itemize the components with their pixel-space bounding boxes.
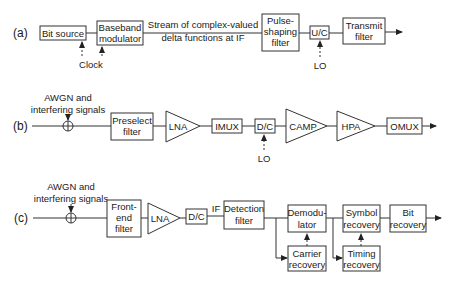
row-c-label: (c) bbox=[14, 211, 28, 225]
camp-label: CAMP bbox=[289, 121, 316, 132]
detection-label-2: filter bbox=[235, 215, 253, 226]
noise-label-c-1: AWGN and bbox=[47, 181, 95, 192]
transmit-filter-label-2: filter bbox=[355, 31, 373, 42]
carrier-label-2: recovery bbox=[289, 259, 326, 270]
bit-source-label: Bit source bbox=[42, 28, 84, 39]
lo-label-a: LO bbox=[314, 60, 327, 71]
front-end-label-3: filter bbox=[115, 223, 133, 234]
stream-note-2: delta functions at IF bbox=[162, 32, 245, 43]
upconverter-label: U/C bbox=[311, 27, 328, 38]
pulse-shaping-label-1: Pulse- bbox=[267, 15, 294, 26]
bit-label-1: Bit bbox=[402, 207, 413, 218]
summing-junction-b bbox=[63, 121, 73, 131]
row-a-transmitter: (a) Bit source Baseband modulator Stream… bbox=[13, 14, 402, 71]
communication-system-diagram: (a) Bit source Baseband modulator Stream… bbox=[0, 0, 453, 287]
timing-label-1: Timing bbox=[347, 248, 375, 259]
transmit-filter-label-1: Transmit bbox=[346, 20, 383, 31]
lna-label-c: LNA bbox=[151, 213, 170, 224]
demodulator-label-2: lator bbox=[298, 219, 316, 230]
symbol-label-1: Symbol bbox=[346, 207, 378, 218]
noise-label-b-2: interfering signals bbox=[31, 104, 106, 115]
if-label: IF bbox=[212, 203, 221, 214]
preselect-label-1: Preselect bbox=[112, 115, 152, 126]
detection-label-1: Detection bbox=[224, 203, 264, 214]
hpa-label: HPA bbox=[342, 121, 361, 132]
timing-label-2: recovery bbox=[343, 259, 380, 270]
pulse-shaping-label-3: filter bbox=[272, 37, 290, 48]
noise-label-b-1: AWGN and bbox=[44, 92, 92, 103]
noise-label-c-2: interfering signals bbox=[34, 193, 109, 204]
lo-label-b: LO bbox=[258, 153, 271, 164]
bit-label-2: recovery bbox=[390, 219, 427, 230]
row-c-receiver: AWGN and interfering signals (c) Front- … bbox=[14, 181, 441, 271]
stream-note-1: Stream of complex-valued bbox=[148, 19, 258, 30]
branch-arrow-timing bbox=[333, 218, 342, 258]
demodulator-label-1: Demodu- bbox=[287, 207, 326, 218]
branch-arrow-carrier bbox=[276, 218, 287, 258]
preselect-label-2: filter bbox=[123, 126, 141, 137]
omux-label: OMUX bbox=[390, 121, 419, 132]
front-end-label-2: end bbox=[116, 212, 132, 223]
imux-label: IMUX bbox=[215, 121, 239, 132]
row-b-transponder: AWGN and interfering signals (b) Presele… bbox=[13, 92, 436, 164]
front-end-label-1: Front- bbox=[111, 201, 136, 212]
row-b-label: (b) bbox=[13, 119, 28, 133]
summing-junction-c bbox=[66, 213, 76, 223]
lna-label-b: LNA bbox=[169, 121, 188, 132]
baseband-modulator-label-2: modulator bbox=[99, 33, 141, 44]
pulse-shaping-label-2: shaping bbox=[264, 26, 297, 37]
symbol-label-2: recovery bbox=[343, 219, 380, 230]
clock-label: Clock bbox=[79, 59, 103, 70]
carrier-label-1: Carrier bbox=[292, 248, 321, 259]
downconverter-label-b: D/C bbox=[257, 121, 274, 132]
baseband-modulator-label-1: Baseband bbox=[99, 22, 142, 33]
row-a-label: (a) bbox=[13, 26, 28, 40]
downconverter-label-c: D/C bbox=[188, 211, 205, 222]
